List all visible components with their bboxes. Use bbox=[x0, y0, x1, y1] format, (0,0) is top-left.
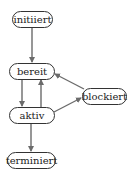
state-bereit: bereit bbox=[9, 63, 55, 80]
state-initiiert: initiiert bbox=[12, 11, 53, 28]
edge-aktiv-blockiert bbox=[54, 98, 81, 112]
state-label: blockiert bbox=[82, 92, 127, 102]
state-aktiv: aktiv bbox=[9, 107, 55, 124]
state-label: bereit bbox=[17, 67, 47, 77]
state-label: terminiert bbox=[6, 156, 58, 166]
state-blockiert: blockiert bbox=[82, 88, 127, 105]
state-terminiert: terminiert bbox=[7, 152, 56, 169]
state-label: initiiert bbox=[14, 15, 52, 25]
edge-blockiert-bereit bbox=[55, 74, 84, 89]
state-label: aktiv bbox=[20, 111, 45, 121]
